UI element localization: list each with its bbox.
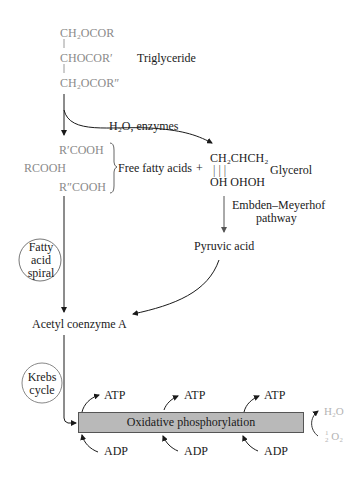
acetyl-coa-label: Acetyl coenzyme A [32,318,127,331]
fatty-acid-r1: R′COOH [59,144,104,157]
pathway-line-2: pathway [256,212,297,225]
adp-label-3: ADP [264,445,288,458]
oxidative-phosphorylation-bar: Oxidative phosphorylation [78,412,304,433]
krebs-cycle-label: Krebs cycle [22,371,62,397]
krebs-line-2: cycle [22,384,62,397]
fatty-acid-r2: R″COOH [59,181,106,194]
atp-label-3: ATP [264,389,285,402]
atp-label-2: ATP [184,389,205,402]
free-fatty-acids-label: Free fatty acids [118,162,192,175]
glycerol-label: Glycerol [270,164,312,177]
fatty-acid-r0: RCOOH [24,162,66,175]
triglyceride-line-1: CH₂OCOR [60,27,114,40]
adp-label-2: ADP [184,445,208,458]
frac-den: 2 [325,436,329,444]
triglyceride-label: Triglyceride [137,52,196,65]
pyruvic-acid-label: Pyruvic acid [194,240,254,253]
triglyceride-line-3: CH₂OCOR″ [60,77,119,90]
hydrolysis-label: H₂O, enzymes [109,120,179,133]
atp-label-1: ATP [104,389,125,402]
one-half-fraction: 1 2 [325,430,329,444]
oxphos-label: Oxidative phosphorylation [127,415,255,430]
fatty-acid-spiral-label: Fatty acid spiral [22,241,60,280]
fatty-spiral-line-3: spiral [22,267,60,280]
adp-label-1: ADP [104,445,128,458]
oxygen-formula: O₂ [331,430,343,442]
oxygen-label: 1 2 O₂ [325,430,343,444]
glycerol-bottom: OH OHOH [210,176,265,189]
plus-sign: + [196,162,203,175]
water-label: H₂O [324,405,344,418]
triglyceride-line-2: CHOCOR′ [60,52,113,65]
